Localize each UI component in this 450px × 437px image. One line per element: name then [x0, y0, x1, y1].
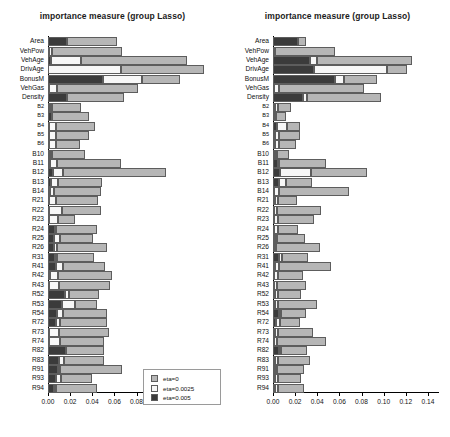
chart-title-left: importance measure (group Lasso)	[0, 11, 225, 21]
bar-segment	[287, 122, 299, 131]
bar-segment	[273, 47, 275, 56]
bar-segment	[60, 318, 106, 327]
bar-segment	[275, 328, 279, 337]
plot-area-left: AreaVehPowVehAgeDrivAgeBonusMVehGasDensi…	[48, 36, 214, 392]
bar-segment	[275, 384, 278, 393]
bar-segment	[57, 309, 63, 318]
bar-segment	[282, 253, 307, 262]
bar-segment	[275, 47, 335, 56]
bar-segment	[49, 281, 58, 290]
bar-segment	[48, 281, 50, 290]
category-label: R53	[257, 299, 269, 308]
category-label: R82	[257, 345, 269, 354]
bar-segment	[273, 271, 275, 280]
axis-tick-label: 0.02	[289, 398, 302, 405]
bar-segment	[48, 84, 50, 93]
category-label: B2	[37, 102, 44, 111]
legend-label: eta=0	[163, 374, 179, 383]
bar-segment	[56, 122, 95, 131]
category-label: R25	[32, 233, 44, 242]
bar-segment	[48, 271, 50, 280]
bar-segment	[49, 215, 58, 224]
legend-swatch-icon	[151, 385, 158, 392]
bar-segment	[273, 150, 275, 159]
category-label: R43	[257, 280, 269, 289]
bar-segment	[48, 262, 56, 271]
bar-segment	[48, 131, 50, 140]
bar-segment	[57, 253, 95, 262]
axis-tick-label: 0.14	[422, 398, 435, 405]
bar-segment	[273, 112, 275, 121]
bar-segment	[279, 159, 325, 168]
category-label: R23	[32, 214, 44, 223]
bar-segment	[55, 225, 97, 234]
category-label: VehAge	[21, 55, 44, 64]
category-label: R54	[257, 308, 269, 317]
bar-segment	[273, 196, 275, 205]
bar-segment	[55, 253, 57, 262]
category-label: R22	[257, 205, 269, 214]
category-label: R94	[257, 383, 269, 392]
legend-swatch-icon	[151, 375, 158, 382]
bar-segment	[273, 187, 275, 196]
category-label: R53	[32, 299, 44, 308]
bar-segment	[49, 337, 60, 346]
bar-segment	[48, 328, 50, 337]
bar-segment	[275, 140, 280, 149]
bar-segment	[48, 253, 55, 262]
category-label: R52	[32, 289, 44, 298]
bar-segment	[48, 75, 103, 84]
category-label: B12	[257, 167, 269, 176]
axis-tick	[362, 392, 363, 396]
category-label: B11	[33, 158, 44, 167]
category-label: R91	[32, 364, 44, 373]
bar-segment	[62, 206, 101, 215]
bar-segment	[275, 234, 277, 243]
category-label: R22	[32, 205, 44, 214]
axis-tick-label: 0.04	[311, 398, 324, 405]
bar-segment	[48, 196, 50, 205]
bar-segment	[275, 150, 277, 159]
bar-segment	[273, 122, 277, 131]
category-label: B5	[262, 130, 269, 139]
figure-container: importance measure (group Lasso) AreaVeh…	[0, 0, 450, 437]
bar-segment	[67, 93, 125, 102]
bar-segment	[48, 56, 51, 65]
bar-segment	[273, 346, 279, 355]
bar-segment	[48, 140, 50, 149]
bar-segment	[317, 56, 412, 65]
bar-segment	[54, 243, 57, 252]
legend-label: eta=0.005	[163, 393, 191, 402]
axis-tick	[406, 392, 407, 396]
bar-segment	[48, 346, 66, 355]
bar-segment	[277, 234, 306, 243]
category-label: R23	[257, 214, 269, 223]
bar-segment	[273, 243, 275, 252]
bar-segment	[275, 196, 278, 205]
category-label: B5	[37, 130, 44, 139]
bar-segment	[58, 271, 112, 280]
category-label: B12	[32, 167, 44, 176]
bar-segment	[273, 253, 279, 262]
bar-segment	[48, 318, 56, 327]
category-label: R41	[32, 261, 44, 270]
category-label: B4	[37, 121, 44, 130]
category-label: R42	[32, 270, 44, 279]
bar-segment	[278, 328, 312, 337]
bar-segment	[69, 290, 99, 299]
bar-segment	[56, 374, 62, 383]
bar-segment	[273, 225, 275, 234]
bar-segment	[57, 243, 107, 252]
category-label: B2	[262, 102, 269, 111]
bar-segment	[277, 281, 307, 290]
axis-tick	[384, 392, 385, 396]
category-label: R24	[257, 224, 269, 233]
category-label: R74	[32, 336, 44, 345]
category-label: Density	[247, 92, 269, 101]
bar-segment	[278, 225, 298, 234]
bar-segment	[303, 93, 307, 102]
bar-segment	[273, 290, 275, 299]
bar-segment	[298, 37, 306, 46]
bar-segment	[279, 140, 296, 149]
bar-segment	[48, 65, 121, 74]
